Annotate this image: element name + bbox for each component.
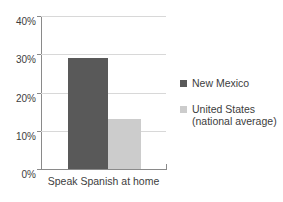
x-axis-end-tick bbox=[166, 164, 167, 170]
legend-swatch-new-mexico-icon bbox=[180, 80, 187, 87]
y-tick-20 bbox=[37, 93, 41, 94]
x-axis-category-label: Speak Spanish at home bbox=[41, 175, 166, 188]
bar-new-mexico bbox=[68, 58, 108, 169]
y-axis-label-10: 10% bbox=[16, 131, 36, 142]
bar-united-states bbox=[108, 119, 141, 169]
y-tick-10 bbox=[37, 131, 41, 132]
legend-label-new-mexico: New Mexico bbox=[192, 77, 249, 90]
y-axis-label-0: 0% bbox=[22, 169, 36, 180]
y-axis-label-40: 40% bbox=[16, 16, 36, 27]
legend-label-united-states: United States (national average) bbox=[192, 103, 277, 128]
chart-legend: New Mexico United States (national avera… bbox=[180, 77, 283, 141]
axis-baseline-0 bbox=[41, 169, 166, 170]
y-tick-0 bbox=[37, 169, 41, 170]
y-axis-label-30: 30% bbox=[16, 54, 36, 65]
legend-item-united-states: United States (national average) bbox=[180, 103, 283, 128]
legend-item-new-mexico: New Mexico bbox=[180, 77, 283, 90]
gridline-30 bbox=[41, 54, 166, 55]
y-axis-label-20: 20% bbox=[16, 93, 36, 104]
legend-swatch-united-states-icon bbox=[180, 106, 187, 113]
y-tick-30 bbox=[37, 54, 41, 55]
gridline-40 bbox=[41, 16, 166, 17]
y-tick-40 bbox=[37, 16, 41, 17]
bar-chart-figure: 40% 30% 20% 10% 0% Speak Spanish at home… bbox=[0, 0, 283, 202]
plot-area bbox=[41, 16, 166, 169]
